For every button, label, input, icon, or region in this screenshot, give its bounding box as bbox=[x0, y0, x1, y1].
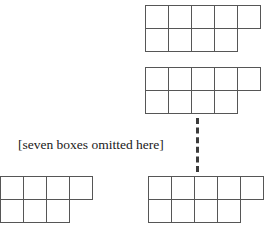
box-cell bbox=[0, 176, 24, 200]
omitted-boxes-caption: [seven boxes omitted here] bbox=[18, 138, 164, 152]
box-cell bbox=[217, 199, 241, 223]
box-cell bbox=[46, 176, 70, 200]
box-cell bbox=[23, 199, 47, 223]
box-cell bbox=[69, 176, 93, 200]
box-shape-row bbox=[0, 176, 92, 200]
box-cell bbox=[145, 67, 169, 91]
box-cell bbox=[237, 67, 261, 91]
box-cell bbox=[217, 176, 241, 200]
vertical-dashed-line bbox=[196, 118, 199, 172]
young-diagram-figure: [seven boxes omitted here] bbox=[0, 0, 272, 226]
box-cell bbox=[191, 5, 215, 29]
box-cell bbox=[145, 90, 169, 114]
box-cell bbox=[214, 90, 238, 114]
box-cell bbox=[168, 67, 192, 91]
box-cell bbox=[214, 5, 238, 29]
box-cell bbox=[171, 176, 195, 200]
box-shape-row bbox=[145, 28, 260, 52]
box-cell bbox=[171, 199, 195, 223]
box-cell bbox=[168, 5, 192, 29]
box-shape bbox=[148, 176, 263, 223]
box-cell bbox=[148, 176, 172, 200]
box-cell bbox=[214, 28, 238, 52]
box-cell bbox=[237, 5, 261, 29]
box-shape-row bbox=[148, 176, 263, 200]
box-cell bbox=[191, 28, 215, 52]
box-cell bbox=[46, 199, 70, 223]
box-shape-row bbox=[145, 90, 260, 114]
box-cell bbox=[148, 199, 172, 223]
box-cell bbox=[214, 67, 238, 91]
box-cell bbox=[23, 176, 47, 200]
box-shape bbox=[145, 5, 260, 52]
box-cell bbox=[191, 90, 215, 114]
box-cell bbox=[168, 28, 192, 52]
box-cell bbox=[145, 28, 169, 52]
box-cell bbox=[145, 5, 169, 29]
box-shape-row bbox=[145, 67, 260, 91]
box-cell bbox=[194, 176, 218, 200]
box-cell bbox=[194, 199, 218, 223]
box-shape bbox=[145, 67, 260, 114]
box-shape-row bbox=[145, 5, 260, 29]
box-shape bbox=[0, 176, 92, 223]
box-cell bbox=[0, 199, 24, 223]
box-cell bbox=[191, 67, 215, 91]
box-shape-row bbox=[148, 199, 263, 223]
box-cell bbox=[240, 176, 264, 200]
box-shape-row bbox=[0, 199, 92, 223]
box-cell bbox=[168, 90, 192, 114]
